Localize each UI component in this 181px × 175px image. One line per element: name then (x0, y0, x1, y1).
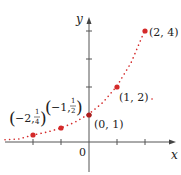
point-2 (142, 28, 147, 33)
exponential-graph: y x 0 (2, 4) (1, 2) (0, 1) ( −2, 1 4 ) (… (0, 0, 181, 175)
y-axis-arrow-icon (87, 17, 92, 24)
y-axis-label: y (75, 12, 83, 26)
svg-text:2: 2 (71, 107, 75, 115)
point-neg2 (30, 132, 35, 137)
point-neg1 (58, 125, 63, 130)
label-point-0: (0, 1) (94, 118, 124, 131)
label-point-neg1: ( −1, 1 2 ) (45, 97, 83, 117)
origin-label: 0 (79, 146, 86, 159)
x-axis-label: x (171, 148, 178, 162)
point-1 (114, 84, 119, 89)
svg-text:−1,: −1, (51, 101, 71, 114)
svg-text:): ) (76, 97, 83, 117)
svg-text:1: 1 (71, 97, 75, 105)
svg-text:−2,: −2, (15, 112, 35, 125)
label-point-2: (2, 4) (149, 26, 179, 39)
axes (5, 17, 176, 172)
x-axis-arrow-icon (169, 140, 176, 145)
label-point-1: (1, 2) (119, 91, 149, 104)
label-point-neg2: ( −2, 1 4 ) (9, 108, 47, 128)
point-0 (86, 112, 91, 117)
svg-text:1: 1 (35, 108, 39, 116)
